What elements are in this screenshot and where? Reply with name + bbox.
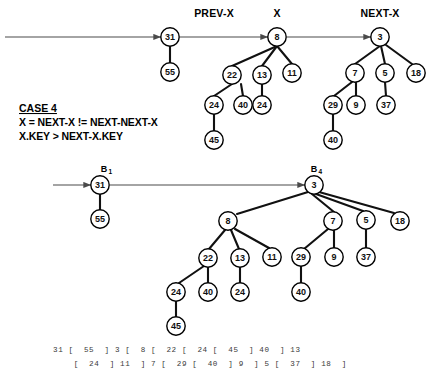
node-18[interactable]: 18 (391, 212, 409, 230)
node-45[interactable]: 45 (167, 317, 185, 335)
node-key: 55 (165, 67, 175, 77)
node-key: 3 (377, 32, 382, 42)
node-40-b[interactable]: 40 (324, 131, 342, 149)
pointer-label-next-x: NEXT-X (360, 7, 399, 19)
node-40-a[interactable]: 40 (234, 96, 252, 114)
node-31[interactable]: 31 (161, 28, 179, 46)
node-key: 9 (331, 252, 336, 262)
node-key: 22 (203, 253, 213, 263)
node-11[interactable]: 11 (263, 248, 281, 266)
node-key: 24 (171, 287, 181, 297)
node-key: 13 (257, 70, 267, 80)
node-5[interactable]: 5 (357, 211, 375, 229)
node-7[interactable]: 7 (324, 212, 342, 230)
fibonacci-heap-case4-figure: PREV-X X NEXT-X (0, 0, 442, 387)
node-22[interactable]: 22 (199, 249, 217, 267)
node-9[interactable]: 9 (325, 248, 343, 266)
bracket-notation-line-2: [ 24 ] 11 ] 7 [ 29 [ 40 ] 9 ] 5 [ 37 ] 1… (53, 360, 347, 368)
node-24-b[interactable]: 24 (231, 283, 249, 301)
node-key: 31 (95, 180, 105, 190)
node-key: 24 (257, 100, 267, 110)
node-key: 45 (209, 135, 219, 145)
node-key: 13 (235, 253, 245, 263)
node-13[interactable]: 13 (231, 249, 249, 267)
node-24-a[interactable]: 24 (167, 283, 185, 301)
node-40-b[interactable]: 40 (292, 283, 310, 301)
node-9[interactable]: 9 (347, 96, 365, 114)
case-condition-line-2: X.KEY > NEXT-X.KEY (19, 130, 123, 142)
node-31[interactable]: 31 (91, 176, 109, 194)
b4-subscript: 4 (319, 168, 323, 175)
node-key: 24 (235, 287, 245, 297)
node-key: 40 (203, 287, 213, 297)
node-key: 40 (328, 135, 338, 145)
node-key: 29 (328, 100, 338, 110)
node-key: 37 (361, 252, 371, 262)
node-key: 55 (95, 214, 105, 224)
node-key: 45 (171, 321, 181, 331)
node-18[interactable]: 18 (407, 64, 425, 82)
bracket-notation-line-1: 31 [ 55 ] 3 [ 8 [ 22 [ 24 [ 45 ] 40 ] 13 (53, 346, 301, 354)
node-55[interactable]: 55 (91, 210, 109, 228)
pointer-label-x: X (273, 7, 280, 19)
node-key: 40 (296, 287, 306, 297)
edge-5-37 (385, 82, 386, 96)
node-3[interactable]: 3 (305, 176, 323, 194)
node-7[interactable]: 7 (346, 64, 364, 82)
node-24-a[interactable]: 24 (205, 96, 223, 114)
node-key: 3 (311, 180, 316, 190)
node-key: 8 (225, 216, 230, 226)
node-key: 40 (238, 100, 248, 110)
node-5[interactable]: 5 (376, 64, 394, 82)
node-24-b[interactable]: 24 (253, 96, 271, 114)
node-11[interactable]: 11 (283, 64, 301, 82)
node-key: 31 (165, 32, 175, 42)
node-key: 5 (363, 215, 368, 225)
b1-subscript: 1 (109, 168, 113, 175)
node-key: 9 (353, 100, 358, 110)
b1-letter: B (101, 164, 108, 174)
node-37[interactable]: 37 (377, 96, 395, 114)
node-8[interactable]: 8 (219, 212, 237, 230)
node-key: 11 (267, 252, 277, 262)
node-key: 24 (209, 100, 219, 110)
node-key: 18 (395, 216, 405, 226)
node-40-a[interactable]: 40 (199, 283, 217, 301)
node-22[interactable]: 22 (223, 66, 241, 84)
node-29[interactable]: 29 (292, 248, 310, 266)
node-45[interactable]: 45 (205, 131, 223, 149)
node-29[interactable]: 29 (324, 96, 342, 114)
node-key: 8 (274, 32, 279, 42)
node-key: 18 (411, 68, 421, 78)
b4-letter: B (311, 164, 318, 174)
figure-background (0, 0, 442, 387)
node-8[interactable]: 8 (268, 28, 286, 46)
node-key: 11 (287, 68, 297, 78)
node-key: 7 (352, 68, 357, 78)
node-55[interactable]: 55 (161, 63, 179, 81)
case-title: CASE 4 (19, 102, 57, 114)
node-37[interactable]: 37 (357, 248, 375, 266)
node-key: 29 (296, 252, 306, 262)
node-13[interactable]: 13 (253, 66, 271, 84)
node-key: 7 (330, 216, 335, 226)
node-key: 37 (381, 100, 391, 110)
node-key: 22 (227, 70, 237, 80)
pointer-label-prev-x: PREV-X (194, 7, 234, 19)
node-key: 5 (382, 68, 387, 78)
case-condition-line-1: X = NEXT-X != NEXT-NEXT-X (19, 116, 158, 128)
node-3[interactable]: 3 (371, 28, 389, 46)
